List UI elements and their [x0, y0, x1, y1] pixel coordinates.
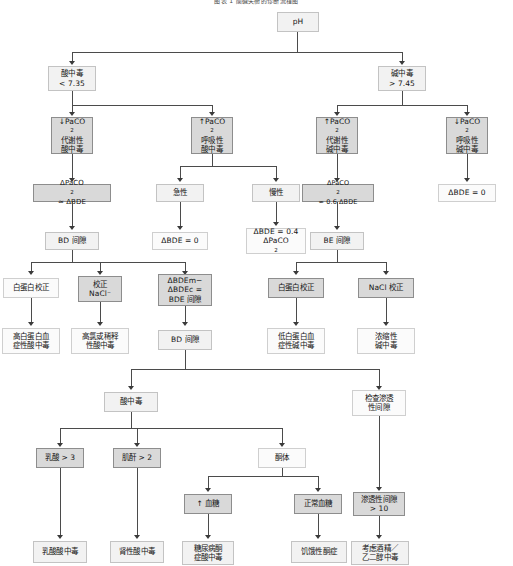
node-hypoalbuminemia-alkalosis: 低白蛋白血 症性碱中毒: [267, 328, 325, 354]
arrow-lactic-acidosis: [57, 535, 63, 539]
connector-begap-split: [296, 262, 386, 263]
node-metabolic-alkalosis-line2: 代谢性: [326, 136, 347, 146]
node-starvation-ketosis-label: 饥饿性酮症: [301, 547, 337, 557]
node-bd-gap-second-label: BD 间隙: [171, 335, 199, 345]
connector-creatinine-drop: [137, 428, 138, 444]
connector-lactate-down: [60, 468, 61, 536]
node-be-gap: BE 间隙: [310, 232, 364, 250]
arrow-met-acid: [69, 112, 75, 116]
node-metabolic-acidosis-line1: ↓PaCO2: [59, 117, 86, 136]
arrow-high-glucose: [205, 488, 211, 492]
arrow-hyperchloremia: [97, 322, 103, 326]
node-hyperchloremic-acidosis: 高氯或稀释 性酸中毒: [71, 328, 129, 354]
connector-bd-gap1-down: [72, 202, 73, 227]
connector-dka-down: [208, 514, 209, 536]
connector-lactate-drop: [60, 428, 61, 444]
arrow-dbde-zero-m: [177, 226, 183, 230]
arrow-acidosis-second: [128, 386, 134, 390]
connector-hypoalb-down: [296, 298, 297, 323]
node-nacl-correction-left-line1: 校正: [93, 280, 107, 290]
arrow-lactate: [57, 443, 63, 447]
connector-osmcheck-drop: [379, 369, 380, 387]
connector-ph-down: [297, 32, 298, 52]
node-be-gap-label: BE 间隙: [324, 236, 351, 246]
node-metabolic-alkalosis: ↑PaCO2 代谢性 碱中毒: [316, 117, 358, 154]
connector-contraction-down: [386, 298, 387, 323]
node-acute-label: 急性: [173, 188, 187, 198]
node-ketones-label: 酮体: [275, 453, 289, 463]
arrow-dka: [205, 535, 211, 539]
node-normal-glucose-label: 正常血糖: [304, 499, 332, 509]
node-chronic: 慢性: [252, 184, 300, 202]
node-nacl-correction-left-line2: NaCl⁻: [89, 289, 111, 299]
node-dbde-04-dpaco2-line1: ΔBDE = 0.4: [254, 227, 299, 237]
node-contraction-alkalosis-line1: 浓缩性: [375, 332, 396, 342]
node-albumin-correction-left: 白蛋白校正: [3, 278, 59, 298]
arrow-met-alk: [334, 112, 340, 116]
node-osmolar-gap-gt10-line2: > 10: [370, 504, 389, 514]
connector-acidosis-split: [72, 105, 212, 106]
connector-ketones-split: [208, 476, 318, 477]
node-respiratory-acidosis-line1: ↑PaCO2: [199, 117, 226, 136]
node-metabolic-alkalosis-line1: ↑PaCO2: [324, 117, 351, 136]
connector-alcohol-down: [379, 516, 380, 536]
node-diabetic-ketoacidosis-line2: 症酸中毒: [194, 553, 222, 563]
arrow-alcohol-toxicity: [376, 535, 382, 539]
node-diabetic-ketoacidosis-line1: 糖尿病酮: [194, 544, 222, 554]
arrow-creatinine: [134, 443, 140, 447]
node-contraction-alkalosis-line2: 碱中毒: [375, 341, 396, 351]
node-respiratory-alkalosis-line2: 呼吸性: [456, 136, 477, 146]
connector-bdgap1-split: [31, 262, 185, 263]
node-high-glucose: ↑ 血糖: [184, 494, 232, 514]
connector-hyperalb-down: [31, 298, 32, 323]
node-bdem-minus-bdec-line1: ΔBDEm−: [168, 276, 203, 286]
node-hyperalbuminemia-acidosis-line2: 症性酸中毒: [13, 341, 49, 351]
node-dbde-04-dpaco2: ΔBDE = 0.4 ΔPaCO2: [246, 228, 306, 254]
connector-bdgap2-down2: [185, 350, 186, 369]
node-lactate-label: 乳酸 > 3: [45, 453, 75, 463]
node-ketones: 酮体: [258, 448, 306, 468]
connector-respalk-down: [467, 154, 468, 179]
node-nacl-correction-right-label: NaCl 校正: [369, 283, 404, 293]
node-dpaco2-06-dbde: ΔPaCO2 ≈ 0.6 ΔBDE: [302, 184, 374, 202]
arrow-acidosis: [69, 61, 75, 65]
node-renal-acidosis-label: 肾性酸中毒: [119, 547, 155, 557]
node-metabolic-acidosis-line2: 代谢性: [61, 136, 82, 146]
arrow-chronic: [273, 178, 279, 182]
connector-dbde-04-down: [276, 202, 277, 223]
connector-ph-split: [72, 52, 402, 53]
node-high-glucose-label: ↑ 血糖: [196, 499, 219, 509]
node-acute: 急性: [156, 184, 204, 202]
connector-acidosis2-split: [60, 428, 282, 429]
node-dbde-04-dpaco2-line2: ΔPaCO2: [263, 236, 289, 255]
node-check-osmolar-gap: 检查渗透 性间隙: [352, 390, 406, 416]
arrow-bd-gap1: [69, 226, 75, 230]
arrow-osm-gap: [376, 487, 382, 491]
flowchart-canvas: 图表 1 酸碱失衡的诊断流程图 pH 酸中毒 < 7.35 碱中毒 > 7.45…: [0, 0, 513, 566]
node-respiratory-acidosis-line2: 呼吸性: [201, 136, 222, 146]
node-bdem-minus-bdec-line3: BDE 间隙: [169, 295, 202, 305]
connector-bdgap1-down2: [72, 250, 73, 262]
node-osmolar-gap-gt10: 渗透性间隙 > 10: [353, 492, 405, 516]
node-dbde-zero-right-label: ΔBDE = 0: [448, 188, 485, 198]
node-bd-gap-second: BD 间隙: [158, 330, 212, 350]
node-alcohol-ethylene-toxicity-line2: 乙二醇中毒: [362, 553, 398, 563]
connector-respacid-split: [180, 166, 276, 167]
node-alkalosis: 碱中毒 > 7.45: [378, 66, 426, 91]
connector-bottom-split: [131, 369, 379, 370]
node-acidosis-line1: 酸中毒: [61, 69, 82, 79]
node-hypoalbuminemia-alkalosis-line1: 低白蛋白血: [278, 332, 314, 342]
node-ph-label: pH: [293, 17, 304, 27]
node-hypoalbuminemia-alkalosis-line2: 症性碱中毒: [278, 341, 314, 351]
node-dpaco2-06-dbde-label: ΔPaCO2 ≈ 0.6 ΔBDE: [319, 179, 358, 208]
arrow-bd-gap-second: [182, 322, 188, 326]
connector-hyperchlor-down: [100, 302, 101, 323]
node-acidosis-line2: < 7.35: [59, 79, 85, 89]
arrow-renal-acidosis: [134, 535, 140, 539]
connector-dbde-zero-m-down: [180, 202, 181, 227]
node-bd-gap-first: BD 间隙: [45, 232, 99, 250]
connector-osmcheck-down: [379, 416, 380, 488]
node-lactic-acidosis: 乳酸酸中毒: [33, 541, 87, 563]
chart-title: 图表 1 酸碱失衡的诊断流程图: [0, 0, 513, 5]
node-acidosis-second-label: 酸中毒: [120, 397, 141, 407]
